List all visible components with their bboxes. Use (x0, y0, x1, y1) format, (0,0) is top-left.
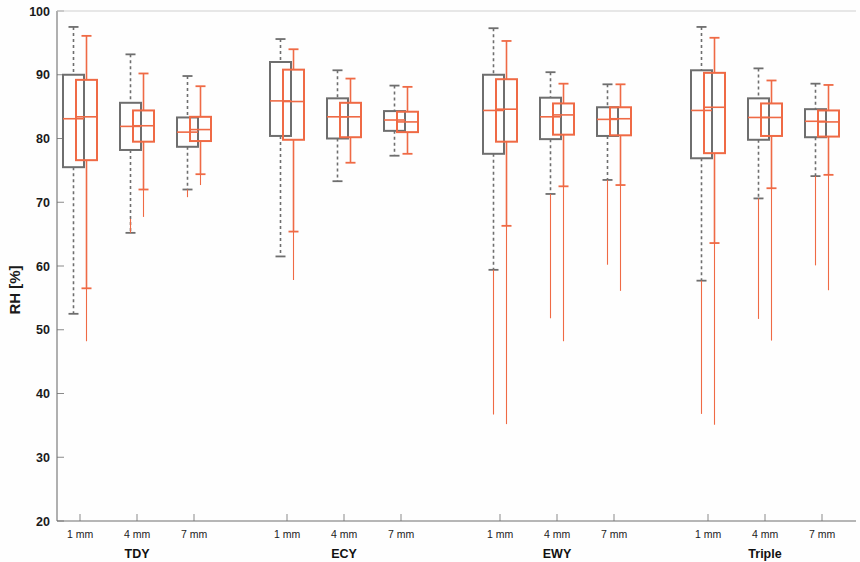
boxplot-TDY-1-mm-series_a (63, 27, 84, 314)
y-tick-label: 100 (29, 5, 50, 19)
x-tick-label-7-mm: 7 mm (809, 528, 836, 540)
box-iqr (283, 70, 304, 140)
x-tick-label-7-mm: 7 mm (181, 528, 208, 540)
boxplot-ECY-4-mm-series_b (340, 79, 361, 163)
x-tick-label-4-mm: 4 mm (544, 528, 571, 540)
x-tick-label-1-mm: 1 mm (274, 528, 301, 540)
boxplot-EWY-1-mm-series_a (483, 28, 504, 414)
boxplot-EWY-4-mm-series_a (540, 72, 561, 318)
boxplot-TDY-4-mm-series_b (133, 73, 154, 216)
x-group-label-TDY: TDY (125, 547, 151, 561)
box-series-layer (63, 27, 839, 425)
y-tick-label: 90 (36, 68, 50, 82)
box-iqr (704, 73, 725, 153)
x-tick-label-7-mm: 7 mm (601, 528, 628, 540)
x-tick-label-4-mm: 4 mm (752, 528, 779, 540)
boxplot-Triple-4-mm-series_b (761, 80, 782, 340)
box-iqr (340, 103, 361, 137)
y-tick-label: 60 (36, 260, 50, 274)
box-iqr (610, 107, 631, 135)
boxplot-Triple-7-mm-series_b (818, 85, 839, 290)
y-tick-label: 20 (36, 515, 50, 529)
box-iqr (748, 98, 769, 139)
x-tick-label-1-mm: 1 mm (67, 528, 94, 540)
box-iqr (597, 107, 618, 136)
y-tick-label: 40 (36, 387, 50, 401)
y-tick-label: 80 (36, 132, 50, 146)
x-tick-label-7-mm: 7 mm (388, 528, 415, 540)
axis-frame (57, 11, 856, 521)
boxplot-EWY-7-mm-series_b (610, 84, 631, 291)
boxplot-Triple-1-mm-series_b (704, 38, 725, 425)
x-tick-label-1-mm: 1 mm (487, 528, 514, 540)
y-tick-label: 50 (36, 323, 50, 337)
box-iqr (384, 111, 405, 131)
box-iqr (270, 62, 291, 136)
boxplot-EWY-1-mm-series_b (496, 41, 517, 424)
x-tick-label-4-mm: 4 mm (124, 528, 151, 540)
box-iqr (818, 110, 839, 136)
box-iqr (761, 103, 782, 136)
box-iqr (553, 103, 574, 134)
x-group-label-ECY: ECY (331, 547, 357, 561)
box-iqr (805, 109, 826, 137)
boxplot-TDY-7-mm-series_a (177, 76, 198, 197)
boxplot-ECY-1-mm-series_b (283, 49, 304, 280)
x-tick-label-1-mm: 1 mm (695, 528, 722, 540)
box-iqr (327, 98, 348, 138)
x-group-label-Triple: Triple (748, 547, 781, 561)
boxplot-Triple-1-mm-series_a (691, 27, 712, 414)
boxplot-TDY-1-mm-series_b (76, 36, 97, 341)
boxplot-ECY-1-mm-series_a (270, 39, 291, 256)
boxplot-EWY-4-mm-series_b (553, 84, 574, 342)
boxplot-figure: 1009080706050403020 1 mm4 mm7 mmTDY1 mm4… (0, 0, 860, 562)
boxplot-Triple-4-mm-series_a (748, 68, 769, 319)
y-tick-label: 70 (36, 196, 50, 210)
plot-canvas: 1009080706050403020 1 mm4 mm7 mmTDY1 mm4… (0, 0, 860, 562)
x-tick-label-4-mm: 4 mm (331, 528, 358, 540)
boxplot-ECY-7-mm-series_a (384, 86, 405, 156)
y-axis-title: RH [%] (6, 265, 23, 314)
boxplot-ECY-4-mm-series_a (327, 70, 348, 181)
box-iqr (76, 80, 97, 160)
box-iqr (63, 75, 84, 167)
boxplot-TDY-7-mm-series_b (190, 86, 211, 185)
boxplot-TDY-4-mm-series_a (120, 54, 141, 233)
y-axis-ticks: 1009080706050403020 (29, 5, 64, 529)
boxplot-EWY-7-mm-series_a (597, 84, 618, 264)
y-tick-label: 30 (36, 451, 50, 465)
box-iqr (691, 70, 712, 158)
x-group-label-EWY: EWY (543, 547, 572, 561)
